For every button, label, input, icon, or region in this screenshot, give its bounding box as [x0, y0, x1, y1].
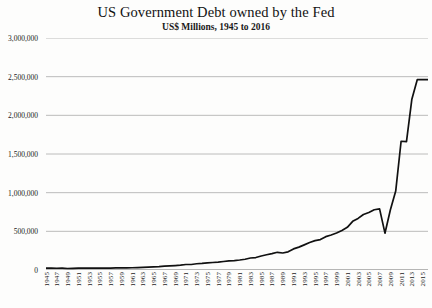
y-axis-tick-label: 3,000,000: [8, 34, 38, 43]
y-axis-tick-label: 1,500,000: [8, 150, 38, 159]
x-axis-tick-label: 1967: [161, 272, 169, 286]
x-axis-tick-label: 1987: [268, 272, 276, 286]
x-axis-tick-label: 2009: [387, 272, 395, 286]
x-axis-labels: 1945194719491951195319551957195919611963…: [46, 272, 428, 308]
x-axis-tick-label: 2011: [398, 272, 406, 286]
chart-title: US Government Debt owned by the Fed: [0, 4, 432, 21]
x-axis-tick-label: 1997: [322, 272, 330, 286]
y-axis-tick-label: 500,000: [14, 227, 38, 236]
x-axis-tick-label: 1949: [64, 272, 72, 286]
x-axis-tick-label: 1959: [118, 272, 126, 286]
x-axis-tick-label: 1999: [333, 272, 341, 286]
x-axis-tick-label: 1985: [258, 272, 266, 286]
plot-area: [46, 38, 428, 270]
y-axis-tick-label: 0: [34, 266, 38, 275]
y-axis-tick-label: 2,000,000: [8, 111, 38, 120]
x-axis-tick-label: 1995: [312, 272, 320, 286]
x-axis-tick-label: 2013: [408, 272, 416, 286]
y-axis-labels: 0500,0001,000,0001,500,0002,000,0002,500…: [0, 38, 44, 278]
x-axis-tick-label: 1947: [53, 272, 61, 286]
x-axis-tick-label: 1989: [279, 272, 287, 286]
x-axis-tick-label: 1963: [139, 272, 147, 286]
x-axis-tick-label: 1975: [204, 272, 212, 286]
y-axis-tick-label: 2,500,000: [8, 72, 38, 81]
x-axis-tick-label: 2015: [419, 272, 427, 286]
x-axis-tick-label: 1991: [290, 272, 298, 286]
x-axis-tick-label: 1969: [172, 272, 180, 286]
x-axis-tick-label: 1955: [96, 272, 104, 286]
x-axis-tick-label: 1951: [75, 272, 83, 286]
x-axis-tick-label: 1957: [107, 272, 115, 286]
gridlines: [46, 38, 428, 270]
x-axis-tick-label: 2005: [365, 272, 373, 286]
x-axis-tick-label: 1953: [86, 272, 94, 286]
x-axis-tick-label: 1981: [236, 272, 244, 286]
x-axis-tick-label: 1945: [43, 272, 51, 286]
chart-container: US Government Debt owned by the Fed US$ …: [0, 0, 432, 308]
x-axis-tick-label: 2003: [355, 272, 363, 286]
x-axis-tick-label: 1961: [129, 272, 137, 286]
chart-subtitle: US$ Millions, 1945 to 2016: [0, 22, 432, 32]
x-axis-tick-label: 1973: [193, 272, 201, 286]
x-axis-tick-label: 1965: [150, 272, 158, 286]
x-axis-tick-label: 2001: [344, 272, 352, 286]
y-axis-tick-label: 1,000,000: [8, 188, 38, 197]
x-axis-tick-label: 1971: [182, 272, 190, 286]
data-line-series-0: [46, 80, 428, 269]
x-axis-tick-label: 1983: [247, 272, 255, 286]
x-axis-tick-label: 1977: [215, 272, 223, 286]
x-axis-tick-label: 2007: [376, 272, 384, 286]
x-axis-tick-label: 1993: [301, 272, 309, 286]
chart-svg: [46, 38, 428, 270]
x-axis-tick-label: 1979: [225, 272, 233, 286]
